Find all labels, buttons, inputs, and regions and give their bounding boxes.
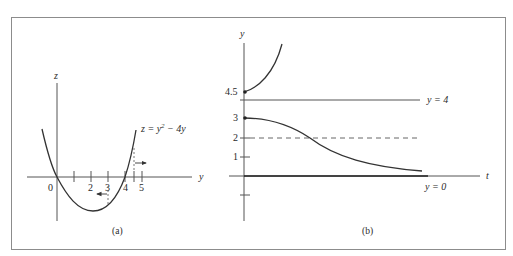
panel-a-tick-label-5: 5 (139, 182, 144, 193)
panel-b-caption: (b) (362, 226, 373, 237)
panel-b-start-point-4-5 (243, 90, 247, 94)
panel-b-ticks (240, 138, 250, 195)
panel-b-start-point-3 (243, 116, 247, 120)
panel-a-horizontal-axis-label: y (198, 171, 204, 182)
panel-b: y t 4.5 3 2 1 y = 4 y = 0 (b) (225, 28, 489, 237)
panel-b-growing-solution-curve (244, 44, 282, 92)
panel-a-caption: (a) (112, 226, 123, 237)
panel-b-label-y4: y = 4 (426, 94, 448, 105)
panel-a-vertical-axis-label: z (53, 70, 58, 81)
panel-a: y z 0 2 3 4 5 z = y2 − 4y (27, 70, 204, 237)
panel-b-tick-label-1: 1 (233, 151, 238, 162)
figure: y z 0 2 3 4 5 z = y2 − 4y (0, 0, 513, 256)
figure-border (12, 18, 506, 250)
panel-a-tick-label-4: 4 (123, 182, 128, 193)
panel-a-curve-label: z = y2 − 4y (140, 122, 186, 134)
panel-b-label-y0: y = 0 (424, 181, 446, 192)
panel-b-decaying-solution-curve (244, 118, 422, 171)
panel-b-vertical-axis-label: y (239, 28, 245, 39)
panel-b-horizontal-axis-label: t (486, 170, 489, 181)
panel-a-tick-label-0: 0 (48, 182, 53, 193)
panel-b-tick-label-4-5: 4.5 (225, 86, 238, 97)
panel-a-tick-label-2: 2 (88, 182, 93, 193)
panel-a-tick-label-3: 3 (105, 182, 110, 193)
panel-b-tick-label-2: 2 (233, 132, 238, 143)
panel-a-parabola-curve (42, 129, 136, 211)
panel-b-tick-label-3: 3 (233, 112, 238, 123)
